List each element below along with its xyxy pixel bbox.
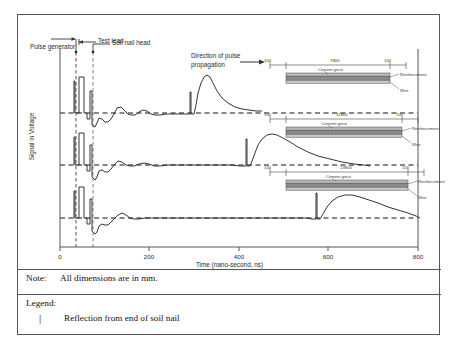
- schematic-1-wire-label: Wire: [400, 88, 408, 93]
- schematic-3-reinforcement-label: Reinforcement: [418, 179, 445, 184]
- schematic-3-length-dim: 13800: [340, 165, 352, 170]
- schematic-2-length-dim: 11800: [336, 112, 348, 117]
- schematic-1-length-dim: 7800: [330, 58, 340, 63]
- direction-of-pulse-label-line1: Direction of pulse: [191, 52, 240, 60]
- schematic-3-grout-label: Cement grout: [326, 174, 351, 179]
- schematic-2-grout-label: Cement grout: [322, 121, 347, 126]
- schematic-2-right-dim: 100: [396, 112, 403, 117]
- y-axis-label: Signal in Voltage: [28, 102, 35, 172]
- schematic-1-reinforcement-label: Reinforcement: [400, 72, 427, 77]
- x-axis-label: Time (nano-second, ns): [18, 261, 441, 268]
- schematic-3-right-dim: 100: [402, 165, 409, 170]
- schematic-1-left-dim: 100: [264, 58, 271, 63]
- schematic-1-right-dim: 100: [384, 58, 391, 63]
- x-tick-0: 0: [58, 253, 61, 260]
- note-row: Note: All dimensions are in mm.: [18, 269, 441, 286]
- note-text: All dimensions are in mm.: [60, 273, 158, 283]
- signal-plot-region: Pulse generator Test lead Soil nail head…: [18, 15, 441, 269]
- legend-key: Legend:: [26, 298, 56, 308]
- x-tick-400: 400: [234, 253, 244, 260]
- schematic-3-left-dim: 100: [264, 165, 271, 170]
- x-tick-600: 600: [323, 253, 333, 260]
- legend-row: Legend: | Reflection from end of soil na…: [18, 294, 441, 336]
- direction-of-pulse-label-line2: propagation: [191, 61, 225, 69]
- schematic-3-wire-label: Wire: [418, 195, 426, 200]
- schematic-2-left-dim: 100: [264, 112, 271, 117]
- x-tick-200: 200: [144, 253, 154, 260]
- figure-box: Pulse generator Test lead Soil nail head…: [17, 14, 440, 335]
- note-key: Note:: [26, 273, 60, 283]
- x-tick-800: 800: [413, 253, 423, 260]
- schematic-1-grout-label: Cement grout: [318, 67, 343, 72]
- legend-tick-label: Reflection from end of soil nail: [48, 313, 180, 323]
- schematic-2-reinforcement-label: Reinforcement: [412, 126, 439, 131]
- pulse-generator-label: Pulse generator: [30, 43, 75, 51]
- reflection-tick-icon: |: [32, 313, 48, 324]
- schematic-2-wire-label: Wire: [412, 142, 420, 147]
- soil-nail-head-label: Soil nail head: [112, 39, 150, 47]
